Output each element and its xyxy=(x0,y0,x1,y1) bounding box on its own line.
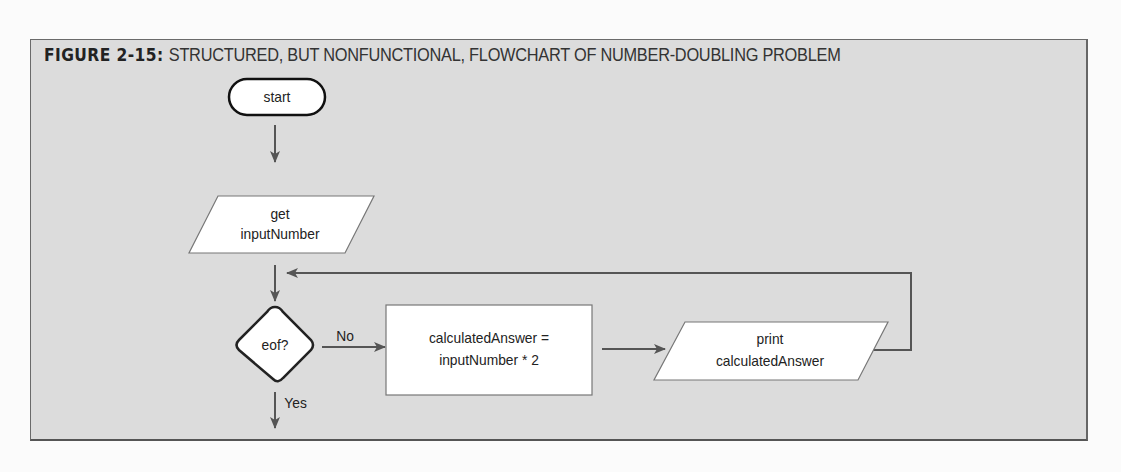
input-label-line1: get xyxy=(206,204,353,224)
output-label-line2: calculatedAnswer xyxy=(687,351,853,371)
no-label: No xyxy=(331,326,359,346)
start-label: start xyxy=(233,87,321,107)
process-label-line1: calculatedAnswer = xyxy=(394,328,584,348)
output-label-line1: print xyxy=(687,329,853,349)
yes-label: Yes xyxy=(284,393,315,413)
flowchart xyxy=(0,0,1121,472)
input-label-line2: inputNumber xyxy=(206,224,353,244)
decision-label: eof? xyxy=(243,335,307,355)
process-label-line2: inputNumber * 2 xyxy=(394,350,584,370)
